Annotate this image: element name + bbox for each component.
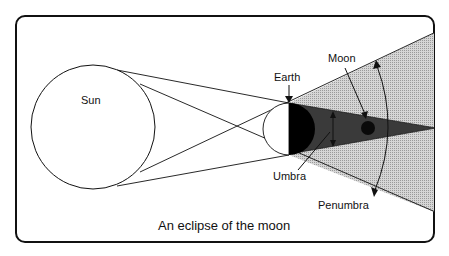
earth-label: Earth <box>274 71 300 83</box>
diagram-caption: An eclipse of the moon <box>158 218 290 233</box>
penumbra-label: Penumbra <box>318 199 370 211</box>
sun <box>31 65 155 189</box>
umbra-label: Umbra <box>273 170 307 182</box>
sun-label: Sun <box>81 94 101 106</box>
moon <box>361 121 375 135</box>
eclipse-diagram: Sun Earth Moon Umbra Penumbra An eclipse… <box>0 0 449 256</box>
moon-label: Moon <box>328 52 356 64</box>
